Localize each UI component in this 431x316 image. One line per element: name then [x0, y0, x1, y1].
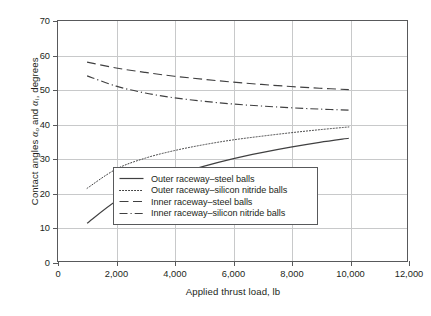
y-axis-label-middle: and [29, 106, 40, 128]
x-axis-tick-label: 4,000 [163, 269, 186, 279]
legend-item: Inner raceway–silicon nitride balls [119, 208, 310, 220]
y-axis-tick-label: 70 [40, 16, 50, 26]
alpha-i-symbol: α [29, 100, 40, 106]
y-axis-tick-label: 30 [40, 154, 50, 164]
y-axis-label-prefix: Contact angles [29, 137, 40, 205]
legend-line-sample [119, 174, 144, 183]
y-axis-label-suffix: , degrees [29, 57, 40, 98]
x-axis-tick-label: 2,000 [105, 269, 128, 279]
legend-line-sample [119, 209, 144, 218]
curve-dashdot [87, 76, 349, 110]
legend-line-sample [119, 186, 144, 195]
x-axis-tick [234, 261, 235, 266]
x-axis-tick [117, 261, 118, 266]
y-axis-tick-label: 0 [45, 258, 50, 268]
legend-label: Outer raceway–steel balls [151, 174, 254, 184]
x-axis-label: Applied thrust load, lb [57, 286, 409, 297]
alpha-o-symbol: α [29, 131, 40, 137]
legend-label: Inner raceway–silicon nitride balls [151, 208, 285, 218]
legend-item: Outer raceway–silicon nitride balls [119, 185, 310, 197]
x-axis-tick [351, 261, 352, 266]
x-axis-tick-label: 10,000 [336, 269, 364, 279]
data-curves [58, 21, 407, 261]
legend-item: Inner raceway–steel balls [119, 196, 310, 208]
x-axis-tick [409, 261, 410, 266]
plot-area: 01020304050607002,0004,0006,0008,00010,0… [57, 20, 408, 262]
chart-figure: Contact angles αo and αi, degrees 010203… [0, 0, 431, 316]
y-axis-tick-label: 40 [40, 120, 50, 130]
x-axis-tick-label: 6,000 [222, 269, 245, 279]
x-axis-tick-label: 12,000 [395, 269, 423, 279]
x-axis-tick [58, 261, 59, 266]
legend-item: Outer raceway–steel balls [119, 173, 310, 185]
curve-dashed [87, 62, 349, 89]
legend-label: Inner raceway–steel balls [151, 197, 252, 207]
y-axis-tick-label: 50 [40, 85, 50, 95]
alpha-i-subscript: i [33, 98, 41, 100]
x-axis-tick [292, 261, 293, 266]
y-axis-tick-label: 10 [40, 223, 50, 233]
x-axis-tick-label: 0 [55, 269, 60, 279]
y-axis-tick-label: 20 [40, 189, 50, 199]
legend-label: Outer raceway–silicon nitride balls [151, 185, 287, 195]
x-axis-tick [175, 261, 176, 266]
legend-line-sample [119, 197, 144, 206]
x-axis-tick-label: 8,000 [280, 269, 303, 279]
y-axis-tick-label: 60 [40, 51, 50, 61]
legend: Outer raceway–steel ballsOuter raceway–s… [113, 167, 318, 225]
